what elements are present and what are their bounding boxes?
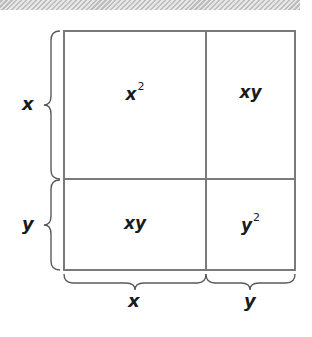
- cell-bottom-right: y2: [206, 215, 295, 234]
- bottom-brace-y: [206, 274, 295, 290]
- cell-top-right-text: xy: [239, 82, 261, 102]
- cell-top-right: xy: [206, 84, 295, 101]
- cell-bottom-left-text: xy: [124, 213, 146, 233]
- left-brace-y: [44, 180, 60, 270]
- cell-bottom-left: xy: [64, 215, 206, 232]
- cell-top-left-exponent: 2: [137, 80, 144, 93]
- left-label-x: x: [22, 95, 34, 113]
- bottom-label-y: y: [244, 292, 256, 310]
- cell-bottom-right-exponent: 2: [253, 211, 260, 224]
- bottom-brace-x: [64, 274, 206, 290]
- outer-square: [64, 31, 295, 270]
- cell-top-left: x2: [64, 84, 206, 103]
- left-brace-x: [44, 31, 60, 179]
- left-label-y: y: [22, 215, 34, 233]
- area-model-grid: [0, 0, 312, 337]
- cell-bottom-right-base: y: [241, 215, 252, 235]
- bottom-label-x: x: [128, 292, 140, 310]
- cell-top-left-base: x: [126, 84, 137, 104]
